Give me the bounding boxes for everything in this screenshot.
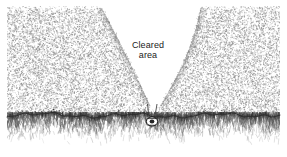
- illustration-figure: Cleared area: [0, 0, 287, 157]
- cleared-area-label-line2: area: [108, 51, 188, 61]
- cleared-area-label: Cleared area: [108, 41, 188, 60]
- grass-tuft-band: [6, 104, 280, 146]
- illustration-canvas: [0, 0, 287, 157]
- spray-nozzle-head: [146, 117, 157, 126]
